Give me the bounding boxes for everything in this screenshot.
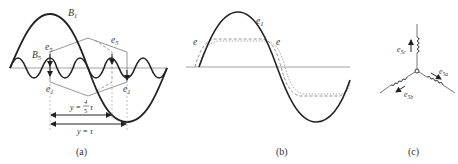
label-e-left: e: [193, 37, 197, 47]
label-y-short: y = 4 5 τ: [69, 98, 94, 114]
branch-a-tail: [443, 85, 455, 93]
label-e5a: e5a: [439, 67, 448, 77]
label-b5: B5: [32, 50, 42, 61]
label-e5b: e5b: [404, 90, 413, 100]
coil-dashed: [95, 40, 112, 92]
label-e5-left: e5: [45, 42, 53, 53]
label-b1: B1: [68, 7, 77, 19]
label-e1-left: e1: [46, 84, 53, 95]
caption-a: (a): [76, 146, 87, 158]
coil-c: [417, 37, 419, 53]
coil-a: [427, 76, 443, 85]
neutral-node: [415, 69, 419, 73]
label-e5c: e5c: [397, 45, 406, 55]
svg-text:5: 5: [84, 107, 87, 114]
branch-b-lead: [407, 72, 415, 77]
svg-text:τ: τ: [90, 103, 94, 112]
svg-text:4: 4: [84, 98, 88, 105]
e-resultant-wave-1: [195, 39, 350, 96]
label-e-right: e: [276, 37, 280, 47]
figure-canvas: B1 B5 e5 e5 e1 e1 y = 4 5 τ y = τ (a) e1…: [0, 0, 458, 164]
caption-c: (c): [408, 146, 419, 158]
label-e1-right: e1: [123, 84, 130, 95]
branch-b-tail: [380, 85, 391, 93]
label-e5-right: e5: [111, 35, 119, 46]
panel-b: e1 e e (b): [186, 12, 350, 158]
panel-a: B1 B5 e5 e5 e1 e1 y = 4 5 τ y = τ (a): [10, 7, 167, 158]
svg-text:y =: y =: [69, 103, 81, 112]
caption-b: (b): [276, 146, 288, 158]
label-e1: e1: [256, 16, 263, 27]
label-y-long: y = τ: [76, 127, 94, 136]
panel-c: e5c e5a e5b (c): [380, 24, 455, 158]
branch-a-lead: [419, 72, 427, 77]
coil-b: [391, 77, 407, 86]
